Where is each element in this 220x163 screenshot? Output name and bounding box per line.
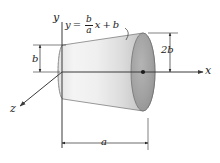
right-face-center-dot [141,70,145,74]
cone-diagram: y x z y = b a x + b b 2b a [0,0,220,163]
z-axis-label: z [10,103,16,114]
x-axis-label: x [205,65,211,76]
y-axis-label: y [53,12,59,23]
z-axis-line [20,72,62,106]
fraction-numerator: b [85,15,93,24]
line-equation: y = b a x + b [65,15,119,36]
dimension-a-label: a [101,137,107,147]
equation-constant: b [113,20,119,30]
equation-plus: + [100,20,112,30]
equation-fraction: b a [85,15,93,36]
equation-equals: = [71,20,83,30]
dimension-2b-label: 2b [161,45,174,55]
fraction-denominator: a [85,26,92,35]
dimension-b-label: b [32,54,38,64]
